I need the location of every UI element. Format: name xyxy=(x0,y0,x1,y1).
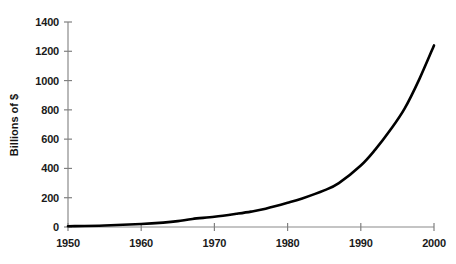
x-axis-tick-label: 1970 xyxy=(203,237,227,249)
y-axis-tick-label: 0 xyxy=(53,221,59,233)
y-axis-tick-label: 1000 xyxy=(35,75,59,87)
y-axis-tick-label: 800 xyxy=(41,104,59,116)
y-axis-title: Billions of $ xyxy=(8,93,20,155)
y-axis-tick-label: 1400 xyxy=(35,16,59,28)
x-axis-tick-label: 1950 xyxy=(56,237,80,249)
data-series-group xyxy=(68,45,434,226)
y-axis-tick-label: 1200 xyxy=(35,45,59,57)
axis-lines xyxy=(68,22,434,227)
x-axis-tick-label: 1960 xyxy=(129,237,153,249)
x-axis-tick-label: 2000 xyxy=(422,237,446,249)
x-axis-tick-label: 1980 xyxy=(276,237,300,249)
x-axis-tick-label: 1990 xyxy=(349,237,373,249)
data-line xyxy=(68,45,434,226)
y-axis-tick-label: 400 xyxy=(41,162,59,174)
y-axis-tick-label: 200 xyxy=(41,192,59,204)
y-axis-tick-label: 600 xyxy=(41,133,59,145)
chart-canvas: Billions of $ 0200400600800100012001400 … xyxy=(0,0,456,264)
chart-plot-area xyxy=(0,0,456,264)
